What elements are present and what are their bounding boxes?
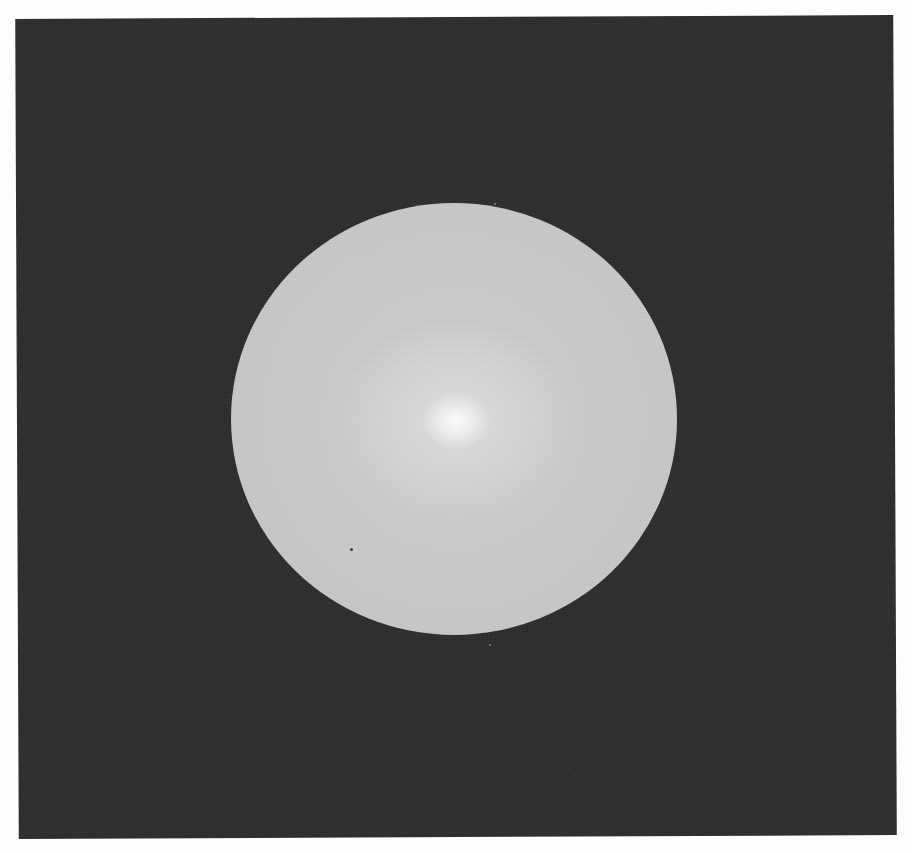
sphere: sphere [231, 203, 677, 635]
image-description: Grayscale photograph-like render of a li… [0, 0, 1, 1]
noise-speck [350, 548, 353, 551]
noise-speck [494, 203, 496, 205]
noise-speck [489, 644, 491, 646]
image-canvas: Grayscale photograph-like render of a li… [0, 0, 912, 853]
